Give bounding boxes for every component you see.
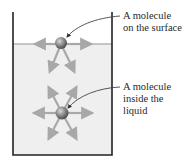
inside-label-line2: inside the xyxy=(123,93,171,105)
surface-label-line1: A molecule xyxy=(123,10,182,22)
inside-molecule xyxy=(56,107,69,120)
inside-label-line3: liquid xyxy=(123,105,171,117)
surface-label-line2: on the surface xyxy=(123,22,182,34)
inside-molecule-label: A molecule inside the liquid xyxy=(123,81,171,117)
surface-molecule xyxy=(55,37,67,49)
surface-molecule-label: A molecule on the surface xyxy=(123,10,182,34)
liquid xyxy=(13,44,112,155)
inside-label-line1: A molecule xyxy=(123,81,171,93)
